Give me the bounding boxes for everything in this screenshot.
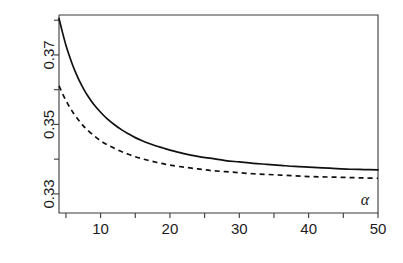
y-tick-label: 0.33 [41, 179, 58, 208]
x-axis-title: α [361, 191, 370, 208]
y-tick-label: 0.37 [41, 40, 58, 69]
chart-canvas: 0.330.350.37 1020304050 α [0, 0, 403, 263]
x-tick-label: 20 [162, 220, 179, 237]
x-tick-label: 30 [231, 220, 248, 237]
x-tick-label: 40 [300, 220, 317, 237]
x-tick-label: 10 [92, 220, 109, 237]
x-tick-label: 50 [370, 220, 387, 237]
chart-background [0, 0, 403, 263]
chart-figure: 0.330.350.37 1020304050 α [0, 0, 403, 263]
y-axis: 0.330.350.37 [41, 20, 60, 208]
y-tick-label: 0.35 [41, 110, 58, 139]
